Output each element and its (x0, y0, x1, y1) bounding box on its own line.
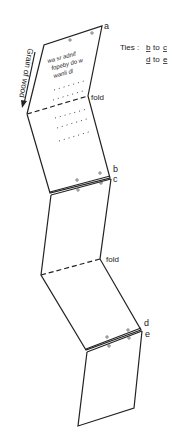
svg-text:Ties :: Ties : (120, 43, 139, 52)
tie-line-e (87, 331, 142, 352)
writing-tablet-diagram: wa sr adnif fopeby do w wanli dl a fold … (0, 0, 178, 448)
label-fold-2: fold (106, 255, 119, 264)
tie-holes (69, 32, 130, 347)
ties-legend: Ties : b to c d to e (120, 43, 168, 64)
label-d: d (144, 318, 149, 328)
panel-1-outline (27, 26, 110, 193)
svg-text:b: b (146, 43, 151, 52)
svg-text:d: d (146, 55, 150, 64)
label-a: a (104, 21, 109, 31)
label-c: c (113, 174, 118, 184)
label-b: b (113, 164, 118, 174)
svg-text:to: to (153, 43, 160, 52)
grain-arrowhead-icon (21, 100, 27, 108)
tie-line-d (86, 328, 141, 349)
label-fold-1: fold (91, 93, 104, 102)
tie-line-c (51, 179, 111, 195)
fold-line-2 (41, 259, 100, 275)
fold-line-1 (27, 96, 88, 114)
inscription: wa sr adnif fopeby do w wanli dl (47, 49, 87, 79)
svg-text:c: c (163, 43, 167, 52)
svg-text:to: to (153, 55, 160, 64)
label-e: e (145, 329, 150, 339)
panel-2-outline (41, 179, 141, 350)
svg-text:e: e (163, 55, 168, 64)
dotted-lines (53, 81, 92, 141)
